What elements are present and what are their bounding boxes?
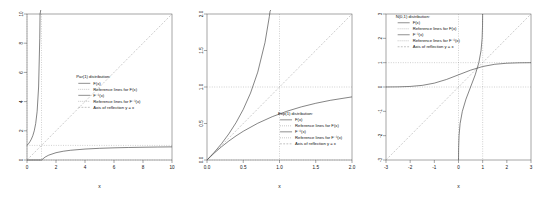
legend-label-3: Reference lines for F⁻¹(x)	[413, 38, 461, 43]
legend: Par(1) distribution:F(x)Reference lines …	[76, 74, 141, 109]
y-tick-label: 2	[19, 129, 24, 132]
y-tick-label: 1.0	[199, 83, 204, 90]
x-tick-label: 0.5	[240, 165, 247, 170]
legend-label-4: Axis of reflection y = x	[93, 105, 135, 110]
y-tick-label: -2	[378, 133, 383, 138]
x-axis-title: x	[98, 183, 101, 189]
x-tick-label: -1	[432, 165, 437, 170]
y-tick-label: 1	[378, 61, 383, 64]
legend-title: N(0,1) distribution:	[396, 14, 430, 19]
legend: Exp(1) distribution:F(x)Reference lines …	[278, 111, 343, 146]
legend-label-4: Axis of reflection y = x	[295, 141, 337, 146]
y-tick-label: -1	[378, 109, 383, 114]
legend-label-1: Reference lines for F(x)	[295, 123, 339, 128]
normal-panel: -3-2-10123-3-2-10123xN(0,1) distribution…	[359, 0, 538, 197]
x-tick-label: 2	[55, 165, 58, 170]
x-tick-label: 3	[530, 165, 533, 170]
legend-label-3: Reference lines for F⁻¹(x)	[295, 135, 343, 140]
y-tick-label: 8	[19, 41, 24, 44]
y-tick-label: 3	[378, 12, 383, 15]
x-tick-label: -2	[408, 165, 413, 170]
legend-label-1: Reference lines for F(x)	[93, 87, 137, 92]
x-axis-title: x	[278, 183, 281, 189]
legend-label-1: Reference lines for F(x)	[413, 26, 457, 31]
x-tick-label: 2.0	[349, 165, 356, 170]
y-tick-label: 1.5	[199, 47, 204, 54]
x-tick-label: 1	[481, 165, 484, 170]
x-tick-label: 6	[113, 165, 116, 170]
x-tick-label: 4	[84, 165, 87, 170]
x-tick-label: 1.5	[313, 165, 320, 170]
y-tick-label: 0	[378, 85, 383, 88]
x-tick-label: -3	[384, 165, 389, 170]
curve-cdf	[27, 147, 172, 160]
curve-quantile	[207, 10, 271, 160]
pareto-panel: 02468100246810xPar(1) distribution:F(x)R…	[0, 0, 179, 197]
curve-cdf	[386, 63, 531, 87]
legend-title: Par(1) distribution:	[76, 74, 110, 79]
legend-label-0: F(x)	[295, 117, 303, 122]
y-tick-label: 10	[19, 11, 24, 17]
x-tick-label: 2	[506, 165, 509, 170]
curve-quantile	[459, 14, 483, 160]
y-tick-label: 2	[378, 37, 383, 40]
exponential-panel-canvas: 0.00.51.01.52.00.00.51.01.52.0xExp(1) di…	[180, 0, 359, 197]
legend-label-2: F⁻¹(x)	[93, 93, 104, 98]
x-tick-label: 0	[457, 165, 460, 170]
legend-label-3: Reference lines for F⁻¹(x)	[93, 99, 141, 104]
y-tick-label: -3	[378, 158, 383, 163]
y-tick-label: 2.0	[199, 10, 204, 17]
legend: N(0,1) distribution:F(x)Reference lines …	[396, 14, 461, 49]
y-tick-label: 6	[19, 71, 24, 74]
curve-quantile	[27, 10, 41, 145]
exponential-panel: 0.00.51.01.52.00.00.51.01.52.0xExp(1) di…	[180, 0, 359, 197]
x-tick-label: 1.0	[276, 165, 283, 170]
x-tick-label: 8	[142, 165, 145, 170]
legend-label-2: F⁻¹(x)	[413, 32, 424, 37]
legend-label-0: F(x)	[413, 20, 421, 25]
x-tick-label: 0	[26, 165, 29, 170]
curve-cdf	[207, 97, 352, 160]
legend-title: Exp(1) distribution:	[278, 111, 313, 116]
x-tick-label: 0.0	[204, 165, 211, 170]
y-tick-label: 4	[19, 100, 24, 103]
three-panel-cdf-figure: 02468100246810xPar(1) distribution:F(x)R…	[0, 0, 539, 197]
y-tick-label: 0.0	[199, 156, 204, 163]
pareto-panel-canvas: 02468100246810xPar(1) distribution:F(x)R…	[0, 0, 179, 197]
normal-panel-canvas: -3-2-10123-3-2-10123xN(0,1) distribution…	[359, 0, 538, 197]
legend-label-0: F(x)	[93, 81, 101, 86]
y-tick-label: 0.5	[199, 120, 204, 127]
x-tick-label: 10	[169, 165, 175, 170]
legend-label-4: Axis of reflection y = x	[413, 44, 455, 49]
x-axis-title: x	[457, 183, 460, 189]
legend-label-2: F⁻¹(x)	[295, 129, 306, 134]
y-tick-label: 0	[19, 158, 24, 161]
